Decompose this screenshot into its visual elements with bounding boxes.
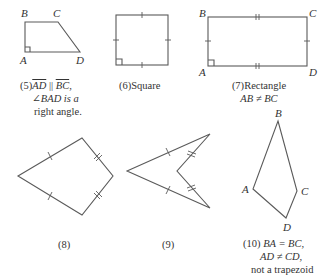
caption-number: (6) — [119, 80, 131, 91]
figure-5-right-trapezoid: B C A D — [19, 7, 84, 66]
parallel-symbol: || — [49, 80, 53, 91]
caption-text: Rectangle — [244, 80, 286, 91]
figure-8-kite — [18, 138, 113, 215]
vertex-label-a: A — [19, 54, 27, 66]
vertex-label-d: D — [308, 66, 317, 78]
caption-figure-8: (8) — [58, 238, 70, 251]
caption-line-2: AB ≠ BC — [240, 93, 277, 104]
caption-number: (10) — [243, 238, 261, 249]
vertex-label-a: A — [198, 66, 206, 78]
double-tick — [187, 154, 195, 157]
figure-7-rectangle: B C A D — [198, 7, 317, 78]
vertex-label-c: C — [301, 185, 309, 197]
caption-figure-7: (7)Rectangle AB ≠ BC — [229, 79, 289, 105]
caption-text: Square — [131, 80, 160, 91]
vertex-label-a: A — [241, 183, 249, 195]
vertex-label-d: D — [75, 54, 84, 66]
vertex-label-d: D — [282, 221, 291, 233]
caption-number: (8) — [58, 239, 70, 250]
caption-line-3: not a trapezoid — [243, 263, 313, 276]
vertex-label-c: C — [53, 7, 61, 19]
right-angle-marker — [208, 60, 214, 66]
figure-6-square — [113, 12, 171, 68]
caption-line-3: right angle. — [20, 105, 82, 118]
caption-line-1: BA = BC, — [263, 238, 304, 249]
figure-10-quadrilateral: B A C D — [241, 107, 309, 233]
caption-number: (7) — [232, 80, 244, 91]
right-angle-marker — [116, 59, 122, 65]
figure-9-dart — [127, 134, 210, 208]
caption-line-2: ∠BAD is a — [32, 93, 79, 104]
double-tick — [187, 185, 195, 188]
vertex-label-b: B — [275, 107, 282, 119]
caption-comma: , — [69, 80, 72, 91]
caption-figure-9: (9) — [162, 238, 174, 251]
caption-figure-5: (5)AD || BC, ∠BAD is a right angle. — [20, 79, 82, 118]
caption-figure-6: (6)Square — [119, 79, 160, 92]
vertex-label-b: B — [199, 7, 206, 19]
caption-line-2: AD ≠ CD, — [260, 251, 302, 262]
caption-number: (5) — [20, 80, 32, 91]
vertex-label-c: C — [309, 7, 317, 19]
segment-bc: BC — [56, 80, 69, 91]
caption-figure-10: (10) BA = BC, AD ≠ CD, not a trapezoid — [243, 237, 313, 276]
right-angle-marker — [25, 47, 30, 52]
vertex-label-b: B — [21, 7, 28, 19]
caption-number: (9) — [162, 239, 174, 250]
segment-ad: AD — [32, 80, 46, 91]
